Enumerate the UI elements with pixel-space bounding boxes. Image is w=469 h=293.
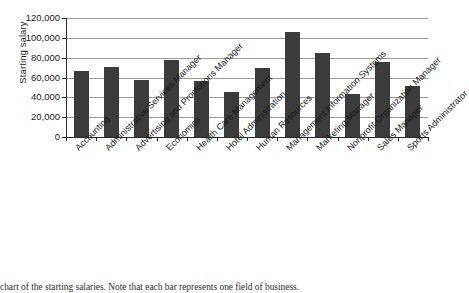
bar [74,71,89,137]
y-tick-label: 20,000 [31,112,60,122]
y-tick-label: 40,000 [31,93,60,103]
y-tick-mark [62,97,66,98]
gridline [67,38,428,39]
y-tick-label: 0 [55,132,60,142]
y-tick-label: 120,000 [26,13,60,23]
y-tick-label: 80,000 [31,53,60,63]
gridline [67,78,428,79]
y-tick-mark [62,58,66,59]
category-labels-group: AccountingAdministrative Services Manage… [66,137,441,267]
y-tick-label: 60,000 [31,73,60,83]
y-tick-mark [62,78,66,79]
y-tick-mark [62,18,66,19]
y-tick-label: 100,000 [26,33,60,43]
gridline [67,18,428,19]
y-tick-mark [62,38,66,39]
figure-caption: chart of the starting salaries. Note tha… [0,282,441,293]
y-tick-mark [62,117,66,118]
